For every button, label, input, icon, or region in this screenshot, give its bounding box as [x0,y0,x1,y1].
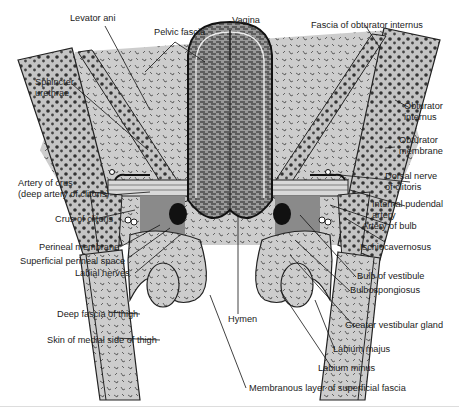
label-bulb-of-vestibule: Bulb of vestibule [357,271,424,282]
right-labium-minus [281,263,313,307]
label-perineal-membrane: Perineal membrane [39,242,119,253]
right-bulb-of-vestibule [273,203,291,225]
label-artery-of-bulb: Artery of bulb [362,221,417,232]
left-bulb-of-vestibule [169,203,187,225]
left-labium-minus [147,263,179,307]
label-labial-nerves: Labial nerves [75,268,130,279]
label-levator-ani: Levator ani [70,13,115,24]
label-vagina: Vagina [232,15,260,26]
label-membranous-layer-of-superficial-fascia: Membranous layer of superficial fascia [249,383,406,394]
label-hymen: Hymen [228,314,257,325]
label-bulbospongiosus: Bulbospongiosus [350,285,420,296]
label-pelvic-fascia: Pelvic fascia [154,27,205,38]
label-deep-fascia-of-thigh: Deep fascia of thigh [57,309,138,320]
label-sphincter-urethrae: Sphincterurethrae [35,77,74,99]
label-internal-pudendal-artery: Internal pudendalartery [372,199,443,221]
label-skin-of-medial-side-of-thigh: Skin of medial side of thigh [47,335,157,346]
divider [0,406,459,407]
label-labium-majus: Labium majus [333,344,390,355]
anatomy-figure: vmc Levator ani Pelvic fascia Vagina Fas… [0,0,459,411]
label-artery-of-crus: Artery of crus(deep artery of clitoris) [18,178,109,200]
label-dorsal-nerve-of-clitoris: Dorsal nerveof clitoris [385,171,437,193]
label-labium-minus: Labium minus [318,363,375,374]
label-crus-of-clitoris: Crus of clitoris [55,214,113,225]
label-ischiocavernosus: Ischiocavernosus [360,242,431,253]
label-obturator-internus: Obturatorinternus [404,101,443,123]
label-obturator-membrane: Obturatormembrane [399,135,443,157]
label-greater-vestibular-gland: Greater vestibular gland [345,320,443,331]
label-superficial-perineal-space: Superficial perineal space [20,256,125,267]
label-fascia-obturator-internus: Fascia of obturator internus [311,20,423,31]
